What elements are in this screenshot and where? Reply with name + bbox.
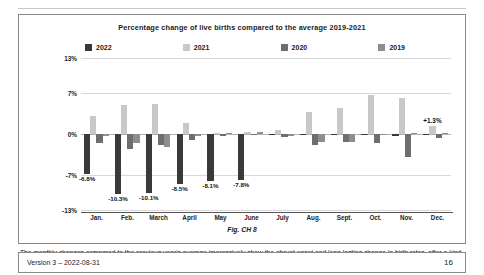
bar-set xyxy=(297,58,328,210)
bar-set: -10.1% xyxy=(143,58,174,210)
x-axis-labels: Jan.Feb.MarchAprilMayJuneJulyAug.Sept.Oc… xyxy=(81,214,453,226)
bar[interactable] xyxy=(164,134,170,147)
footer-version: Version 3 – 2022-08-31 xyxy=(27,259,100,266)
legend-item-2020[interactable]: 2020 xyxy=(281,44,308,51)
y-axis-tick-label: 7% xyxy=(68,90,77,97)
bar-slot xyxy=(288,58,294,210)
bar-group: -10.3% xyxy=(112,58,143,210)
bar-group xyxy=(358,58,389,210)
bar-slot xyxy=(226,58,232,210)
legend-label-2019: 2019 xyxy=(389,44,405,51)
x-axis-tick-label: Aug. xyxy=(298,214,329,226)
legend-label-2020: 2020 xyxy=(292,44,308,51)
x-axis-tick-label: Nov. xyxy=(391,214,422,226)
chart-title: Percentage change of live births compare… xyxy=(19,23,465,32)
bar[interactable] xyxy=(411,133,417,134)
bar-slot xyxy=(257,58,263,210)
y-axis-tick-label: -13% xyxy=(62,207,77,214)
bar-set: -6.8% xyxy=(81,58,112,210)
bar-set: -8.5% xyxy=(173,58,204,210)
legend-label-2022: 2022 xyxy=(96,44,112,51)
y-axis-tick-label: -7% xyxy=(66,171,77,178)
x-axis-tick-label: Jan. xyxy=(81,214,112,226)
bar-slot xyxy=(380,58,386,210)
bar-group: -7.8% xyxy=(235,58,266,210)
bar-set xyxy=(266,58,297,210)
bar-group xyxy=(328,58,359,210)
bar-set xyxy=(389,58,420,210)
x-axis-tick-label: Oct. xyxy=(360,214,391,226)
bar-set: -8.1% xyxy=(204,58,235,210)
bar-set xyxy=(358,58,389,210)
bar-slot xyxy=(133,58,139,210)
x-axis-tick-label: April xyxy=(174,214,205,226)
chart-legend: 2022 2021 2020 2019 xyxy=(85,41,405,53)
legend-item-2021[interactable]: 2021 xyxy=(183,44,210,51)
bar-group: -8.5% xyxy=(173,58,204,210)
bar-slot xyxy=(349,58,355,210)
legend-swatch-2019 xyxy=(378,44,385,51)
bar[interactable] xyxy=(318,134,324,142)
bar-slot xyxy=(411,58,417,210)
document-page: Percentage change of live births compare… xyxy=(0,0,484,275)
bar-groups: -6.8%-10.3%-10.1%-8.5%-8.1%-7.8%+1.3% xyxy=(81,58,451,210)
bar[interactable] xyxy=(133,134,139,143)
bar[interactable] xyxy=(442,133,448,134)
bar-slot xyxy=(318,58,324,210)
bar-slot xyxy=(164,58,170,210)
y-axis-tick-label: 13% xyxy=(64,55,77,62)
bar-set: +1.3% xyxy=(420,58,451,210)
bar-set: -7.8% xyxy=(235,58,266,210)
bar-group xyxy=(389,58,420,210)
x-axis-line xyxy=(81,212,453,213)
legend-label-2021: 2021 xyxy=(194,44,210,51)
bar[interactable] xyxy=(226,133,232,134)
x-axis-tick-label: Dec. xyxy=(422,214,453,226)
bar-slot xyxy=(103,58,109,210)
x-axis-tick-label: May xyxy=(205,214,236,226)
legend-item-2022[interactable]: 2022 xyxy=(85,44,112,51)
bar[interactable] xyxy=(195,134,201,136)
bar-group: +1.3% xyxy=(420,58,451,210)
legend-swatch-2021 xyxy=(183,44,190,51)
bar-slot xyxy=(195,58,201,210)
footer-page-number: 16 xyxy=(444,258,453,267)
x-axis-tick-label: July xyxy=(267,214,298,226)
bar-set: -10.3% xyxy=(112,58,143,210)
legend-item-2019[interactable]: 2019 xyxy=(378,44,405,51)
page-top-rule xyxy=(18,8,466,9)
legend-swatch-2022 xyxy=(85,44,92,51)
bar-set xyxy=(328,58,359,210)
legend-swatch-2020 xyxy=(281,44,288,51)
x-axis-tick-label: March xyxy=(143,214,174,226)
chart-card: Percentage change of live births compare… xyxy=(18,14,466,244)
bar[interactable] xyxy=(380,134,386,135)
bar[interactable] xyxy=(288,134,294,136)
bar-group: -10.1% xyxy=(143,58,174,210)
x-axis-tick-label: June xyxy=(236,214,267,226)
bar-group: -8.1% xyxy=(204,58,235,210)
figure-caption: Fig. CH 8 xyxy=(19,226,465,233)
x-axis-tick-label: Sept. xyxy=(329,214,360,226)
y-axis-tick-label: 0% xyxy=(68,131,77,138)
page-footer: Version 3 – 2022-08-31 16 xyxy=(18,252,466,273)
chart-plot-area: 13%7%0%-7%-13%-6.8%-10.3%-10.1%-8.5%-8.1… xyxy=(81,58,451,210)
bar[interactable] xyxy=(257,132,263,134)
bar-slot xyxy=(442,58,448,210)
bar-group: -6.8% xyxy=(81,58,112,210)
bar[interactable] xyxy=(103,134,109,136)
x-axis-tick-label: Feb. xyxy=(112,214,143,226)
bar[interactable] xyxy=(349,134,355,142)
bar-group xyxy=(297,58,328,210)
bar-group xyxy=(266,58,297,210)
gridline xyxy=(81,210,451,211)
